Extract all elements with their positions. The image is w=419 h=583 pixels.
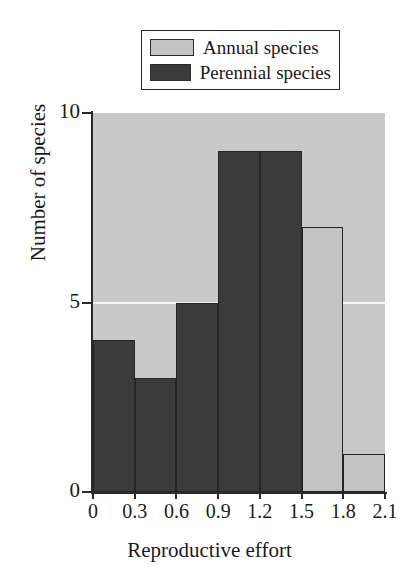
x-tick-2.1 (384, 492, 386, 499)
y-axis-title: Number of species (26, 68, 51, 298)
legend-swatch-annual (150, 39, 194, 56)
x-tick-label-0.6: 0.6 (154, 500, 198, 522)
x-axis-tick-labels: 00.30.60.91.21.51.82.1 (0, 500, 419, 528)
x-tick-0.6 (175, 492, 177, 499)
y-tick-10 (82, 112, 92, 114)
bar-series-container (93, 113, 385, 492)
bar-0.6-0.9 (176, 303, 218, 493)
x-tick-label-0.9: 0.9 (196, 500, 240, 522)
x-tick-label-2.1: 2.1 (363, 500, 407, 522)
x-tick-label-1.8: 1.8 (321, 500, 365, 522)
bar-0.3-0.6 (135, 378, 177, 492)
x-tick-0.3 (134, 492, 136, 499)
x-tick-label-0.3: 0.3 (113, 500, 157, 522)
x-tick-1.2 (259, 492, 261, 499)
y-tick-label-0: 0 (40, 480, 80, 501)
x-tick-0 (92, 492, 94, 499)
legend-swatch-perennial (150, 64, 191, 81)
chart-figure: Annual species Perennial species 1050 Nu… (0, 0, 419, 583)
legend-label-annual: Annual species (203, 38, 319, 57)
x-axis-title: Reproductive effort (0, 538, 419, 563)
x-tick-label-0: 0 (71, 500, 115, 522)
x-tick-0.9 (217, 492, 219, 499)
bar-1.5-1.8 (302, 227, 344, 492)
x-tick-1.5 (301, 492, 303, 499)
legend-label-perennial: Perennial species (200, 63, 331, 82)
x-tick-label-1.2: 1.2 (238, 500, 282, 522)
bar-1.8-2.1 (343, 454, 385, 492)
x-tick-label-1.5: 1.5 (280, 500, 324, 522)
y-tick-5 (82, 302, 92, 304)
y-tick-0 (82, 491, 92, 493)
bar-1.2-1.5 (260, 151, 302, 492)
bar-0-0.3 (93, 340, 135, 492)
bar-0.9-1.2 (218, 151, 260, 492)
legend-item-annual: Annual species (150, 37, 331, 59)
legend-item-perennial: Perennial species (150, 62, 331, 84)
x-tick-1.8 (342, 492, 344, 499)
chart-legend: Annual species Perennial species (141, 30, 340, 90)
